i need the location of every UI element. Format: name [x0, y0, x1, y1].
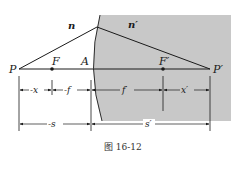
medium-n-label: n — [68, 20, 75, 31]
dim-s-label: -s — [48, 119, 56, 129]
point-F-label: F — [51, 55, 60, 68]
dim-x-prime-label: x′ — [181, 85, 188, 95]
diagram-canvas: n n′ P F A F′ P′ -x -f f′ x′ -s s′ 图 16-… — [0, 0, 244, 169]
point-A-label: A — [80, 55, 89, 68]
refraction-diagram: n n′ P F A F′ P′ -x -f f′ x′ -s s′ 图 16-… — [0, 0, 244, 169]
dim-x-label: -x — [30, 85, 38, 95]
medium-n-prime-label: n′ — [128, 19, 138, 30]
point-P-prime-label: P′ — [212, 63, 223, 76]
point-F-prime-label: F′ — [158, 55, 170, 68]
figure-caption: 图 16-12 — [104, 142, 142, 152]
dim-f-prime-label: f′ — [121, 85, 127, 95]
dim-s-prime-label: s′ — [145, 119, 152, 129]
point-P-label: P — [8, 63, 17, 76]
